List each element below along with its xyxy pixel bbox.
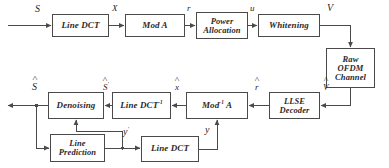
block-label: Mod-1 A bbox=[200, 101, 234, 111]
block-label-line2: Prediction bbox=[57, 148, 98, 157]
signal-label-x-hat-rx: x bbox=[175, 83, 179, 92]
signal-label-x-tx: X bbox=[112, 4, 118, 13]
signal-label-v-tx: V bbox=[327, 3, 333, 13]
signal-label-r-hat-rx: r bbox=[255, 83, 259, 92]
block-label: Line DCT bbox=[59, 21, 101, 31]
junction-shat bbox=[35, 104, 38, 107]
block-whitening[interactable]: Whitening bbox=[258, 14, 320, 37]
block-diagram-canvas: Line DCT Mod A PowerAllocation Whitening… bbox=[0, 0, 389, 168]
block-raw-ofdm-channel[interactable]: RawOFDMChannel bbox=[326, 48, 375, 88]
block-label-line2: Decoder bbox=[278, 106, 312, 115]
block-llse-decoder[interactable]: LLSEDecoder bbox=[269, 92, 320, 119]
signal-label-r-tx: r bbox=[187, 4, 191, 13]
block-line-dct-inverse[interactable]: Line DCT-1 bbox=[112, 92, 171, 119]
signal-label-s-hat-out: S bbox=[32, 82, 37, 92]
block-mod-inverse-a[interactable]: Mod-1 A bbox=[186, 92, 248, 119]
block-label: Mod A bbox=[140, 21, 169, 31]
block-line-dct-tx[interactable]: Line DCT bbox=[52, 14, 109, 37]
signal-label-s-in: S bbox=[35, 4, 40, 14]
block-label: Whitening bbox=[267, 21, 311, 31]
block-line-dct-feedback[interactable]: Line DCT bbox=[141, 136, 199, 162]
block-denoising[interactable]: Denoising bbox=[48, 92, 104, 119]
signal-label-y-fb: y bbox=[205, 125, 209, 135]
signal-label-y-prime-fb: y′ bbox=[123, 127, 129, 137]
block-label: Denoising bbox=[55, 101, 98, 111]
wire-whitening-to-channel bbox=[320, 26, 351, 48]
block-power-allocation[interactable]: PowerAllocation bbox=[196, 12, 248, 39]
block-line-prediction[interactable]: LinePrediction bbox=[50, 134, 105, 162]
block-label-line3: Channel bbox=[333, 73, 368, 82]
junction-yprime bbox=[121, 146, 124, 149]
block-label-line2: Allocation bbox=[201, 26, 242, 35]
block-mod-a[interactable]: Mod A bbox=[125, 14, 185, 37]
block-label: Line DCT-1 bbox=[118, 101, 165, 111]
signal-label-s-hat-prime: S′ bbox=[103, 83, 109, 92]
block-label: Line DCT bbox=[149, 144, 191, 154]
signal-label-v-hat-rx: V bbox=[323, 83, 329, 92]
signal-label-u-tx: u bbox=[250, 4, 255, 13]
